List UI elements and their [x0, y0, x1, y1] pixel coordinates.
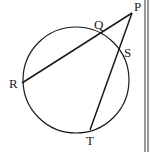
- label-s: S: [124, 45, 131, 60]
- label-t: T: [86, 133, 94, 148]
- secant-pr: [22, 13, 132, 83]
- label-p: P: [134, 0, 141, 14]
- label-r: R: [9, 76, 18, 91]
- secant-diagram: P Q R S T: [0, 0, 150, 152]
- label-q: Q: [94, 17, 104, 32]
- circle: [23, 27, 129, 133]
